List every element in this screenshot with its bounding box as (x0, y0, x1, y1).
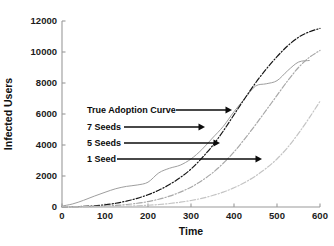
y-tick-label: 12000 (31, 15, 57, 26)
line-chart: 020004000600080001000012000 010020030040… (0, 0, 334, 246)
annotation-label-true-adoption-curve: True Adoption Curve (87, 105, 176, 115)
y-tick-label: 0 (52, 201, 57, 212)
x-tick-label: 100 (97, 210, 113, 221)
annotation-label-5-seeds: 5 Seeds (87, 138, 121, 148)
y-tick-label: 2000 (36, 170, 57, 181)
chart-figure: 020004000600080001000012000 010020030040… (0, 0, 334, 246)
annotation-label-7-seeds: 7 Seeds (87, 122, 121, 132)
x-axis-title: Time (179, 225, 203, 237)
x-tick-label: 500 (269, 210, 285, 221)
y-tick-label: 4000 (36, 139, 57, 150)
x-tick-label: 400 (226, 210, 242, 221)
x-tick-label: 0 (59, 210, 64, 221)
y-tick-label: 6000 (36, 108, 57, 119)
x-tick-label: 600 (312, 210, 328, 221)
y-tick-label: 10000 (31, 46, 57, 57)
x-tick-label: 200 (140, 210, 156, 221)
y-axis-title: Infected Users (2, 78, 14, 151)
annotation-label-1-seed: 1 Seed (87, 154, 116, 164)
x-tick-label: 300 (183, 210, 199, 221)
y-tick-label: 8000 (36, 77, 57, 88)
